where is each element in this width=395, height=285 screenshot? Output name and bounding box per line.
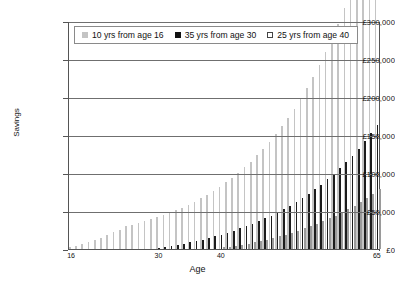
y-tick-label: £100,000	[333, 170, 395, 179]
bar	[169, 213, 171, 249]
y-tick-mark	[63, 60, 68, 61]
x-tick-label: 30	[155, 252, 163, 259]
x-tick-label: 40	[217, 252, 225, 259]
y-tick-mark	[63, 174, 68, 175]
legend-label: 35 yrs from age 30	[185, 30, 257, 40]
bar	[119, 230, 121, 249]
bar	[150, 219, 152, 249]
legend-item: 35 yrs from age 30	[175, 30, 257, 40]
y-axis-title: Savings	[12, 93, 21, 153]
bar	[171, 246, 173, 249]
bar	[113, 232, 115, 249]
legend-label: 10 yrs from age 16	[92, 30, 164, 40]
bar	[131, 225, 133, 249]
bar	[163, 215, 165, 249]
bar	[196, 241, 198, 249]
y-tick-label: £150,000	[333, 132, 395, 141]
bar	[202, 240, 204, 249]
x-axis-title: Age	[0, 264, 395, 274]
bar	[175, 210, 177, 249]
y-tick-mark	[63, 250, 68, 251]
bar	[144, 221, 146, 249]
y-tick-mark	[63, 136, 68, 137]
x-tick-label: 16	[67, 252, 75, 259]
legend-label: 25 yrs from age 40	[277, 30, 349, 40]
bar	[88, 242, 90, 249]
legend-item: 10 yrs from age 16	[82, 30, 164, 40]
bar	[214, 236, 216, 249]
y-tick-label: £0	[333, 246, 395, 255]
y-tick-mark	[63, 22, 68, 23]
bar	[69, 247, 71, 249]
y-tick-label: £250,000	[333, 56, 395, 65]
bar	[158, 248, 160, 249]
bar	[189, 242, 191, 249]
bar	[125, 226, 127, 249]
legend-item: 25 yrs from age 40	[267, 30, 349, 40]
bar	[75, 246, 77, 249]
y-tick-mark	[63, 98, 68, 99]
x-tick-label: 65	[373, 252, 381, 259]
bar	[183, 244, 185, 249]
savings-bar-chart: £0£50,000£100,000£150,000£200,000£250,00…	[0, 0, 395, 285]
y-tick-label: £50,000	[333, 208, 395, 217]
bar	[94, 240, 96, 249]
bar	[81, 244, 83, 249]
bar	[177, 245, 179, 249]
legend-swatch-icon	[82, 32, 88, 38]
legend-swatch-icon	[175, 32, 181, 38]
bar	[164, 247, 166, 249]
bar	[138, 223, 140, 249]
y-tick-label: £200,000	[333, 94, 395, 103]
legend-swatch-icon	[267, 32, 273, 38]
y-tick-mark	[63, 212, 68, 213]
bar	[156, 217, 158, 249]
bar	[208, 238, 210, 249]
bar	[379, 189, 381, 249]
chart-legend: 10 yrs from age 1635 yrs from age 3025 y…	[74, 26, 358, 44]
bar	[106, 235, 108, 249]
bar	[100, 238, 102, 249]
